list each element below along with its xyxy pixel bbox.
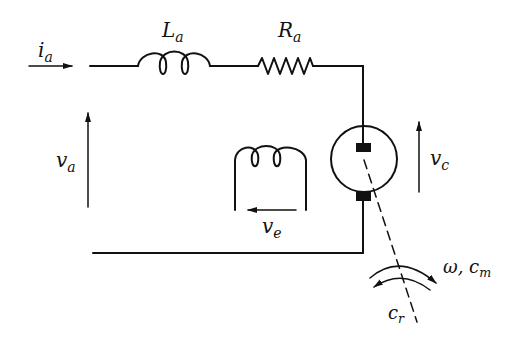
dc-motor-circuit-diagram: ia La Ra va vc ve ω, cm cr bbox=[0, 0, 524, 338]
armature-resistor bbox=[258, 58, 313, 74]
brush-top bbox=[356, 143, 371, 152]
label-Ra: Ra bbox=[278, 20, 301, 44]
label-omega-cm: ω, cm bbox=[443, 258, 491, 280]
cr-torque-arrow bbox=[374, 278, 430, 290]
label-ia: ia bbox=[38, 40, 53, 64]
label-ve: ve bbox=[262, 216, 282, 240]
label-vc: vc bbox=[430, 148, 449, 172]
field-winding bbox=[235, 146, 306, 210]
shaft-axis-dashed bbox=[364, 160, 417, 322]
armature-inductor bbox=[138, 52, 210, 75]
label-va: va bbox=[56, 150, 76, 174]
label-cr: cr bbox=[388, 304, 404, 326]
label-La: La bbox=[162, 20, 184, 44]
brush-bottom bbox=[356, 192, 371, 201]
